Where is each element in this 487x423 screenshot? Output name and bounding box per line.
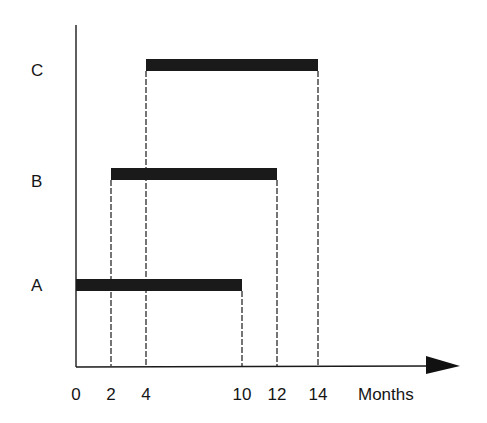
- x-tick-label: 14: [309, 385, 328, 404]
- x-tick-label: 0: [71, 385, 80, 404]
- bar-a: [76, 279, 242, 291]
- bar-c: [146, 59, 318, 71]
- bar-b: [111, 168, 277, 180]
- x-axis: [76, 366, 428, 367]
- category-labels: ABC: [31, 61, 43, 295]
- x-axis-arrow-icon: [426, 356, 460, 374]
- gantt-chart: ABC 024101214 Months: [0, 0, 487, 423]
- x-tick-labels: 024101214: [71, 385, 327, 404]
- category-label-a: A: [31, 276, 43, 295]
- x-tick-label: 12: [268, 385, 287, 404]
- x-tick-label: 4: [141, 385, 150, 404]
- category-label-c: C: [31, 61, 43, 80]
- drop-lines: [111, 71, 318, 366]
- bars: [76, 59, 318, 291]
- x-axis-title: Months: [358, 385, 414, 404]
- category-label-b: B: [31, 172, 42, 191]
- x-tick-label: 10: [233, 385, 252, 404]
- x-tick-label: 2: [106, 385, 115, 404]
